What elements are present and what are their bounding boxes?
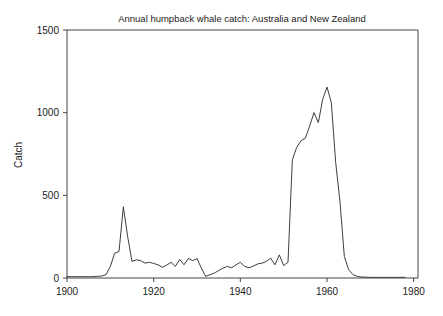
x-tick-label: 1940 [229,286,252,297]
x-tick-label: 1900 [56,286,79,297]
chart-title: Annual humpback whale catch: Australia a… [118,13,366,24]
catch-series-line [67,87,405,277]
y-tick-label: 0 [53,273,59,284]
y-axis-title: Catch [13,142,24,168]
x-tick-labels: 19001920194019601980 [56,286,425,297]
y-tick-marks [63,30,67,278]
x-tick-marks [67,278,414,282]
x-tick-label: 1960 [316,286,339,297]
y-tick-label: 1000 [37,107,60,118]
whale-catch-line-chart: Annual humpback whale catch: Australia a… [0,0,443,316]
x-tick-label: 1980 [403,286,426,297]
y-tick-labels: 050010001500 [37,25,60,284]
chart-figure: Annual humpback whale catch: Australia a… [0,0,443,316]
y-tick-label: 500 [42,190,59,201]
x-tick-label: 1920 [143,286,166,297]
y-tick-label: 1500 [37,25,60,36]
